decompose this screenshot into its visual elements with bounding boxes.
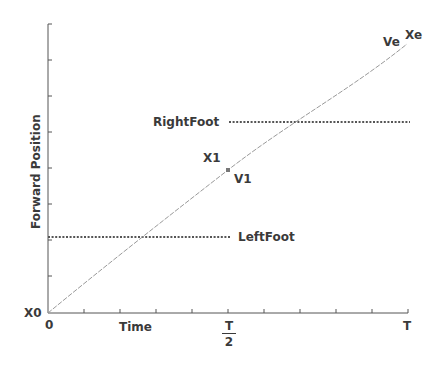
- y-axis: [48, 24, 52, 313]
- x1-label: X1: [203, 152, 221, 164]
- x0-label: X0: [24, 307, 42, 319]
- x-axis-label: Time: [119, 321, 152, 333]
- x-axis: [48, 309, 408, 313]
- x-end-label: T: [403, 320, 411, 332]
- right-foot-label: RightFoot: [153, 116, 219, 128]
- x-half-numerator: T: [222, 320, 236, 334]
- xe-label: Xe: [405, 29, 422, 41]
- y-axis-label: Forward Position: [30, 114, 42, 229]
- trajectory-diagram: [0, 0, 448, 368]
- x-half-denominator: 2: [222, 334, 236, 348]
- x-half-label: T 2: [222, 320, 236, 348]
- x1-marker: [226, 168, 230, 172]
- ve-label: Ve: [383, 36, 400, 48]
- x-origin-label: 0: [45, 319, 53, 331]
- trajectory-curve: [48, 44, 407, 313]
- left-foot-label: LeftFoot: [238, 231, 295, 243]
- v1-label: V1: [234, 173, 252, 185]
